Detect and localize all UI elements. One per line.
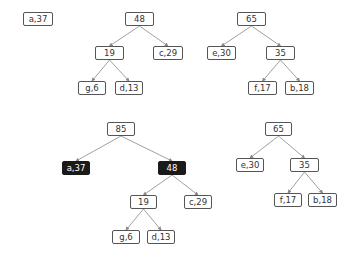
tree-node-t4_d13: d,13: [147, 230, 175, 244]
tree-edge: [110, 60, 130, 81]
tree-node-t4_19: 19: [130, 195, 157, 209]
tree-edge: [288, 172, 305, 193]
tree-node-t4_c29: c,29: [184, 195, 212, 209]
tree-edge: [252, 26, 281, 46]
tree-node-t5_35: 35: [290, 158, 319, 172]
tree-edge: [279, 136, 305, 158]
tree-node-t3_65: 65: [237, 12, 266, 26]
tree-edge: [305, 172, 323, 193]
tree-edge: [281, 60, 300, 81]
tree-edge: [126, 209, 144, 230]
tree-node-t5_e30: e,30: [236, 158, 264, 172]
tree-node-t1_a37: a,37: [23, 12, 53, 26]
tree-node-t2_d13: d,13: [115, 81, 143, 95]
tree-edge: [92, 60, 110, 81]
tree-node-t4_85: 85: [107, 122, 135, 136]
tree-node-t4_48: 48: [158, 161, 186, 175]
tree-node-t5_b18: b,18: [308, 193, 337, 207]
tree-node-t5_f17: f,17: [274, 193, 302, 207]
tree-node-t2_19: 19: [95, 46, 124, 60]
tree-edge: [121, 136, 172, 161]
tree-node-t3_b18: b,18: [285, 81, 314, 95]
tree-node-t2_g6: g,6: [78, 81, 106, 95]
tree-edge: [250, 136, 279, 158]
tree-node-t5_65: 65: [265, 122, 292, 136]
tree-node-t4_a37: a,37: [62, 161, 90, 175]
tree-edge: [263, 60, 281, 81]
tree-edge: [144, 175, 173, 195]
tree-node-t3_f17: f,17: [248, 81, 277, 95]
tree-edges: [0, 0, 351, 255]
tree-node-t3_e30: e,30: [207, 46, 236, 60]
tree-node-t4_g6: g,6: [112, 230, 140, 244]
tree-edge: [76, 136, 121, 161]
tree-edge: [172, 175, 198, 195]
tree-node-t2_c29: c,29: [153, 46, 183, 60]
tree-node-t2_48: 48: [125, 12, 154, 26]
tree-edge: [144, 209, 162, 230]
tree-node-t3_35: 35: [266, 46, 295, 60]
tree-edge: [110, 26, 140, 46]
tree-edge: [222, 26, 252, 46]
tree-edge: [140, 26, 169, 46]
